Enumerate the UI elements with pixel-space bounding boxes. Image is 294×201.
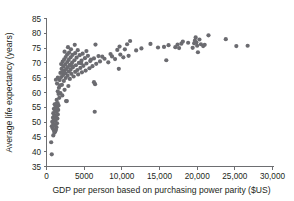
scatter-point <box>186 41 190 45</box>
scatter-point <box>94 62 98 66</box>
scatter-point <box>84 49 88 53</box>
scatter-point <box>206 33 210 37</box>
data-points-layer <box>49 33 250 156</box>
x-axis: 0500010,00015,00020,00025,00030,000 <box>44 167 285 182</box>
scatter-point <box>56 92 60 96</box>
y-tick-label: 75 <box>32 44 42 53</box>
y-tick-label: 50 <box>32 118 42 127</box>
scatter-point <box>139 46 143 50</box>
scatter-point <box>166 43 170 47</box>
x-tick-label: 30,000 <box>260 172 285 181</box>
scatter-point <box>224 37 228 41</box>
scatter-point <box>49 140 53 144</box>
scatter-point <box>80 70 84 74</box>
y-tick-label: 35 <box>32 163 42 172</box>
y-tick-label: 40 <box>32 148 42 157</box>
y-axis: 3540455055606570758085 <box>32 15 47 172</box>
scatter-point <box>70 64 74 68</box>
scatter-chart-figure: 3540455055606570758085 0500010,00015,000… <box>0 0 294 201</box>
scatter-point <box>62 88 66 92</box>
scatter-point <box>64 99 68 103</box>
x-tick-label: 25,000 <box>222 172 247 181</box>
axis-titles: GDP per person based on purchasing power… <box>4 32 271 195</box>
scatter-point <box>123 47 127 51</box>
scatter-point <box>54 102 58 106</box>
scatter-point <box>58 83 62 87</box>
x-axis-title: GDP per person based on purchasing power… <box>52 185 270 195</box>
scatter-point <box>53 106 57 110</box>
scatter-point <box>196 50 200 54</box>
x-tick-label: 15,000 <box>147 172 172 181</box>
scatter-point <box>117 45 121 49</box>
scatter-point <box>162 45 166 49</box>
scatter-point <box>84 61 88 65</box>
x-tick-label: 5000 <box>75 172 94 181</box>
scatter-point <box>93 110 97 114</box>
scatter-point <box>52 124 56 128</box>
scatter-point <box>86 54 90 58</box>
x-tick-label: 20,000 <box>185 172 210 181</box>
y-tick-label: 55 <box>32 103 42 112</box>
scatter-point <box>234 44 238 48</box>
scatter-point <box>89 58 93 62</box>
scatter-point <box>134 48 138 52</box>
y-axis-title: Average life expectancy (years) <box>4 32 14 152</box>
scatter-point <box>66 45 70 49</box>
scatter-point <box>197 37 201 41</box>
scatter-point <box>100 55 104 59</box>
scatter-point <box>246 44 250 48</box>
scatter-point <box>106 60 110 64</box>
scatter-point <box>108 52 112 56</box>
x-tick-label: 0 <box>44 172 49 181</box>
scatter-point <box>50 152 54 156</box>
y-tick-label: 45 <box>32 133 42 142</box>
scatter-point <box>76 48 80 52</box>
scatter-point <box>125 42 129 46</box>
scatter-point <box>92 80 96 84</box>
y-tick-label: 85 <box>32 15 42 24</box>
scatter-point <box>96 54 100 58</box>
scatter-point <box>62 50 66 54</box>
scatter-point <box>164 58 168 62</box>
scatter-point <box>79 61 83 65</box>
scatter-point <box>90 64 94 68</box>
scatter-point <box>52 117 56 121</box>
scatter-point <box>191 46 195 50</box>
x-tick-label: 10,000 <box>109 172 134 181</box>
scatter-point <box>60 70 64 74</box>
scatter-point <box>98 59 102 63</box>
scatter-point <box>181 39 185 43</box>
scatter-point <box>118 53 122 57</box>
scatter-point <box>66 84 70 88</box>
scatter-point <box>54 78 58 82</box>
scatter-point <box>203 43 207 47</box>
y-tick-label: 70 <box>32 59 42 68</box>
scatter-point <box>117 67 121 71</box>
scatter-point <box>195 44 199 48</box>
scatter-point <box>127 54 131 58</box>
scatter-point <box>156 45 160 49</box>
scatter-point <box>81 52 85 56</box>
scatter-point <box>84 69 88 73</box>
scatter-point <box>194 35 198 39</box>
scatter-point <box>175 42 179 46</box>
scatter-point <box>93 42 97 46</box>
y-tick-label: 80 <box>32 29 42 38</box>
y-tick-label: 60 <box>32 89 42 98</box>
scatter-point <box>73 43 77 47</box>
scatter-point <box>148 42 152 46</box>
scatter-point <box>128 39 132 43</box>
chart-canvas: 3540455055606570758085 0500010,00015,000… <box>0 0 294 201</box>
y-tick-label: 65 <box>32 74 42 83</box>
